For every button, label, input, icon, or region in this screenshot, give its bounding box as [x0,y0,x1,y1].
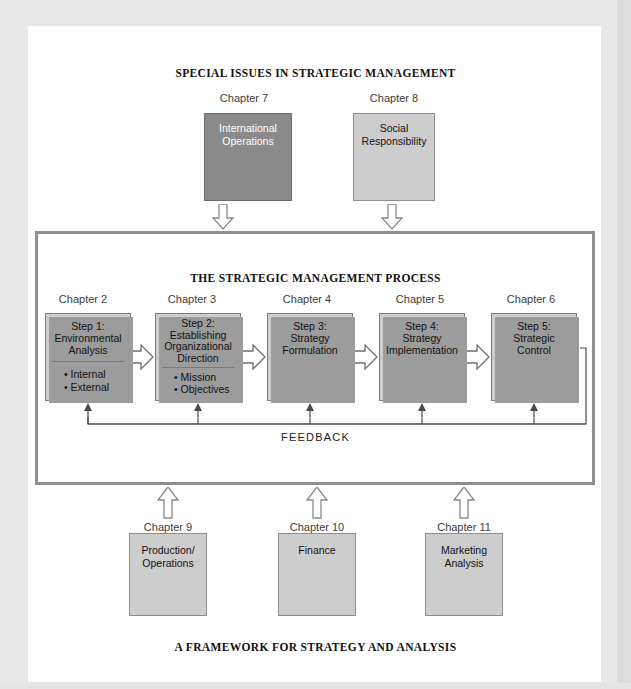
box-international-line2: Operations [222,135,273,147]
box-marketing-line1: Marketing [441,544,487,556]
step4-line3: Implementation [386,344,458,356]
box-social-responsibility[interactable]: Social Responsibility [353,113,435,201]
page-edge-right [617,0,631,689]
page-edge-bottom [0,683,631,689]
step1-divider [52,361,124,362]
box-international-operations[interactable]: International Operations [204,113,292,201]
box-production-line2: Operations [142,557,193,569]
arrow-up-production [157,487,179,519]
step2-line2: Establishing [170,329,227,341]
box-international-line1: International [219,122,277,134]
step-box-4[interactable]: Step 4: Strategy Implementation [379,313,465,401]
box-social-line1: Social [380,122,409,134]
bottom-heading: A FRAMEWORK FOR STRATEGY AND ANALYSIS [0,641,631,653]
step1-bullet-0: • Internal [64,368,106,380]
box-social-line2: Responsibility [362,135,427,147]
step-box-1[interactable]: Step 1: Environmental Analysis • Interna… [45,313,131,401]
step2-line4: Direction [177,352,218,364]
step-box-5[interactable]: Step 5: Strategic Control [491,313,577,401]
box-marketing-line2: Analysis [444,557,483,569]
chapter-label-11: Chapter 11 [409,521,519,533]
step2-bullet-0: • Mission [174,371,216,383]
chapter-label-9: Chapter 9 [113,521,223,533]
box-marketing-analysis[interactable]: Marketing Analysis [425,533,503,616]
box-finance[interactable]: Finance [278,533,356,616]
chapter-label-7: Chapter 7 [189,92,299,104]
chapter-label-10: Chapter 10 [262,521,372,533]
step3-line3: Formulation [282,344,337,356]
chapter-label-8: Chapter 8 [339,92,449,104]
box-production-line1: Production/ [141,544,194,556]
step3-line1: Step 3: [293,320,326,332]
step5-line3: Control [517,344,551,356]
step5-line2: Strategic [513,332,554,344]
step4-line1: Step 4: [405,320,438,332]
step1-bullet-1: • External [64,381,109,393]
step1-line3: Analysis [68,344,107,356]
arrow-down-social [381,204,403,230]
step2-bullet-1: • Objectives [174,383,230,395]
step2-line1: Step 2: [181,317,214,329]
box-production-operations[interactable]: Production/ Operations [129,533,207,616]
step-box-3[interactable]: Step 3: Strategy Formulation [267,313,353,401]
step3-line2: Strategy [290,332,329,344]
step5-line1: Step 5: [517,320,550,332]
step1-line2: Environmental [54,332,121,344]
step2-line3: Organizational [164,340,232,352]
step-box-2[interactable]: Step 2: Establishing Organizational Dire… [155,313,241,401]
arrow-up-marketing [453,487,475,519]
arrow-step4-to-step5 [463,344,490,370]
arrow-step3-to-step4 [351,344,378,370]
arrow-step2-to-step3 [239,344,266,370]
top-heading: SPECIAL ISSUES IN STRATEGIC MANAGEMENT [0,67,631,79]
step2-divider [162,367,234,368]
arrow-up-finance [306,487,328,519]
box-finance-line1: Finance [298,544,335,556]
step4-line2: Strategy [402,332,441,344]
scanned-page: SPECIAL ISSUES IN STRATEGIC MANAGEMENT C… [0,0,631,689]
step1-line1: Step 1: [71,320,104,332]
arrow-down-international [212,204,234,230]
feedback-label: FEEDBACK [0,431,631,443]
